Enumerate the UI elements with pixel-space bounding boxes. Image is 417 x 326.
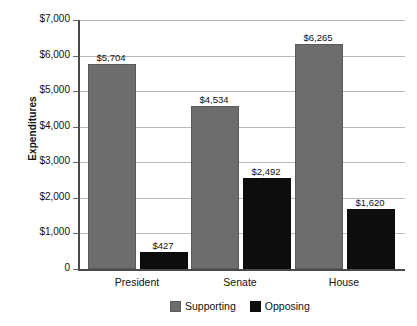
- legend-label: Opposing: [265, 300, 310, 312]
- bar-value-label: $1,620: [335, 197, 405, 208]
- bar-value-label: $5,704: [76, 52, 146, 63]
- category-label-president: President: [82, 276, 192, 288]
- bar-value-label: $4,534: [179, 94, 249, 105]
- bar-chart: Expenditures $5,704$427$4,534$2,492$6,26…: [0, 0, 417, 326]
- legend-item-supporting[interactable]: Supporting: [170, 300, 236, 312]
- bar-president-opposing: [140, 252, 188, 269]
- y-tick-label: $3,000: [8, 155, 70, 166]
- x-axis-line: [78, 269, 405, 271]
- bar-house-supporting: [295, 44, 343, 269]
- bar-senate-opposing: [243, 178, 291, 269]
- bar-value-label: $6,265: [283, 32, 353, 43]
- legend-label: Supporting: [185, 300, 236, 312]
- y-tick-label: $5,000: [8, 84, 70, 95]
- chart-legend: SupportingOpposing: [170, 300, 310, 312]
- legend-swatch-icon: [250, 301, 261, 312]
- category-label-house: House: [289, 276, 399, 288]
- bar-house-opposing: [347, 209, 395, 269]
- y-tick-label: 0: [8, 262, 70, 273]
- y-axis-line: [78, 20, 80, 271]
- category-label-senate: Senate: [185, 276, 295, 288]
- y-tick-label: $7,000: [8, 13, 70, 24]
- y-tick-label: $2,000: [8, 191, 70, 202]
- y-tick-label: $1,000: [8, 226, 70, 237]
- bar-senate-supporting: [191, 106, 239, 269]
- bar-value-label: $427: [128, 240, 198, 251]
- y-tick-label: $4,000: [8, 120, 70, 131]
- gridline: [80, 20, 405, 21]
- legend-swatch-icon: [170, 301, 181, 312]
- legend-item-opposing[interactable]: Opposing: [250, 300, 310, 312]
- y-tick-label: $6,000: [8, 49, 70, 60]
- bar-president-supporting: [88, 64, 136, 269]
- plot-area: $5,704$427$4,534$2,492$6,265$1,620: [78, 20, 405, 270]
- bar-value-label: $2,492: [231, 166, 301, 177]
